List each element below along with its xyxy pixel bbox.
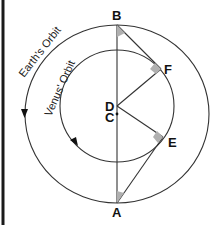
point-c-dot [116,113,119,116]
venus-orbit-arrow-icon [70,137,78,146]
line-df [117,69,161,106]
earth-orbit-label: Earth's Orbit [16,24,63,79]
angle-marker-a [117,191,124,203]
venus-orbit-label: Venus' Orbit [42,59,77,118]
label-e: E [168,135,177,150]
label-c: C [105,110,115,125]
label-a: A [112,205,122,220]
label-f: F [164,62,172,77]
orbit-diagram: B A F E D C Earth's Orbit Venus' Orbit [0,0,218,225]
earth-orbit-arrow-icon [21,109,28,118]
label-b: B [112,8,121,23]
angle-marker-b [117,25,125,37]
right-angle-marker-f [150,63,161,74]
